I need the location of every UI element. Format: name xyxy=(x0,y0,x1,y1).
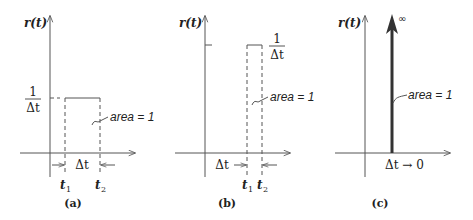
infinity-label: ∞ xyxy=(398,13,406,24)
height-numerator-a: 1 xyxy=(29,85,37,99)
area-label-a: area = 1 xyxy=(110,110,154,124)
height-denominator-a: Δt xyxy=(26,101,40,115)
caption-c: (c) xyxy=(371,197,388,210)
area-leader-b xyxy=(252,97,268,105)
panel-b: r(t) 1 Δt area = 1 Δt t 1 t 2 (b) xyxy=(175,16,314,210)
area-leader-a xyxy=(92,117,108,125)
caption-b: (b) xyxy=(218,197,236,210)
area-label-c: area = 1 xyxy=(408,88,452,102)
y-axis-label-a: r(t) xyxy=(24,16,47,30)
t2-sub-b: 2 xyxy=(263,185,268,194)
limit-label: Δt → 0 xyxy=(385,158,424,172)
caption-a: (a) xyxy=(64,197,82,210)
height-numerator-b: 1 xyxy=(273,32,281,46)
width-label-b: Δt xyxy=(215,158,229,172)
t1-sub-b: 1 xyxy=(248,185,253,194)
panel-a: r(t) 1 Δt area = 1 Δt t 1 t 2 (a) xyxy=(20,16,154,210)
y-axis-label-b: r(t) xyxy=(179,16,202,30)
y-axis-label-c: r(t) xyxy=(338,16,361,30)
unit-impulse-diagram: r(t) 1 Δt area = 1 Δt t 1 t 2 (a) r(t) 1… xyxy=(0,0,473,220)
height-denominator-b: Δt xyxy=(270,48,284,62)
width-label-a: Δt xyxy=(75,158,89,172)
t2-sub-a: 2 xyxy=(101,185,106,194)
panel-c: r(t) ∞ area = 1 Δt → 0 (c) xyxy=(335,13,452,210)
t1-sub-a: 1 xyxy=(66,185,71,194)
area-label-b: area = 1 xyxy=(270,90,314,104)
area-leader-c xyxy=(393,95,407,103)
